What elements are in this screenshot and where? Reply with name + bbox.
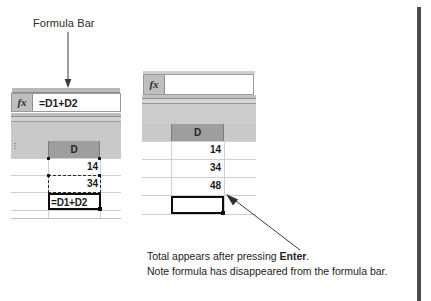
insert-function-icon[interactable]: fx [144, 75, 165, 94]
active-cell-D4[interactable] [171, 196, 224, 214]
marquee-dot-tr [98, 157, 101, 160]
fill-handle[interactable] [98, 207, 102, 211]
cell-D3-result[interactable]: 48 [173, 181, 221, 191]
toolbar-area [142, 104, 256, 124]
column-header-label: D [70, 144, 77, 155]
gridline-row-0 [11, 158, 121, 159]
gridline-row-3 [11, 210, 121, 211]
page-edge-rule [417, 7, 421, 301]
gridline-row-2 [142, 177, 256, 178]
diagonal-arrow-icon [222, 190, 304, 254]
column-header-D[interactable]: D [48, 141, 100, 158]
row-header-ellipsis-icon: ⋮ [11, 143, 19, 148]
marquee-dot-tl [47, 157, 50, 160]
formula-bar-input[interactable]: =D1+D2 [33, 94, 120, 111]
cell-D1[interactable]: 14 [50, 162, 98, 172]
marquee-dot-mr [98, 174, 101, 177]
gridline-row-0 [142, 141, 256, 142]
caption-line-1-prefix: Total appears after pressing [147, 250, 280, 262]
caption-line-2: Note formula has disappeared from the fo… [147, 264, 409, 279]
caption-line-1: Total appears after pressing Enter. [147, 249, 409, 264]
gridline-row-4 [11, 218, 121, 219]
caption-line-1-suffix: . [306, 250, 309, 262]
cell-D3-formula-text: =D1+D2 [51, 198, 87, 208]
formula-bar-input[interactable] [165, 75, 253, 94]
formula-bar[interactable]: fx [143, 74, 254, 95]
figure-canvas: Formula Bar fx =D1+D2 D ⋮ [0, 0, 431, 301]
fx-glyph: fx [17, 97, 26, 108]
figure-caption: Total appears after pressing Enter. Note… [147, 249, 409, 278]
marquee-dot-ml [47, 174, 50, 177]
gridline-row-1 [142, 159, 256, 160]
toolbar-area [11, 122, 121, 141]
insert-function-icon[interactable]: fx [12, 94, 33, 111]
down-arrow-icon [60, 32, 76, 88]
cell-D1[interactable]: 14 [173, 145, 221, 155]
formula-bar-callout-label: Formula Bar [33, 17, 95, 29]
column-header-D[interactable]: D [171, 124, 224, 141]
before-enter-screenshot: fx =D1+D2 D ⋮ 14 34 [11, 88, 121, 228]
copy-marquee [48, 175, 101, 193]
cell-D2[interactable]: 34 [173, 163, 221, 173]
caption-line-1-bold: Enter [280, 250, 307, 262]
formula-bar[interactable]: fx =D1+D2 [11, 93, 121, 112]
column-header-label: D [194, 127, 201, 138]
fx-glyph: fx [149, 79, 158, 90]
